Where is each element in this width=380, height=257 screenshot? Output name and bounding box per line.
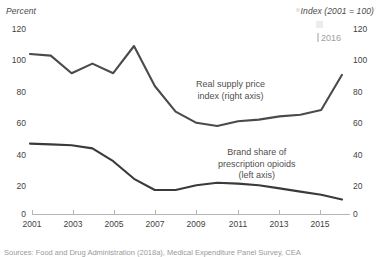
x-axis-tickmark-2013	[279, 210, 280, 214]
annotation-index-line1: Real supply price	[196, 79, 265, 91]
x-axis-tick-2001: 2001	[16, 220, 48, 229]
left-axis-title: Percent	[6, 6, 36, 16]
x-axis-tick-2009: 2009	[180, 220, 212, 229]
right-axis-tick-40: 40	[353, 151, 379, 160]
right-axis-tick-0: 0	[353, 210, 379, 219]
annotation-brand-line1: Brand share of	[218, 147, 296, 159]
left-axis-tick-60: 60	[0, 119, 26, 128]
x-axis-tick-2013: 2013	[263, 220, 295, 229]
annotation-index-line2: index (right axis)	[196, 91, 265, 103]
artifact-ghost-block	[316, 21, 323, 28]
left-axis-tick-0: 0	[0, 210, 26, 219]
artifact-dot	[296, 8, 300, 12]
series-line-real-supply-price-index	[30, 46, 342, 126]
x-axis-tickmark-2009	[196, 210, 197, 214]
right-axis-tick-100: 100	[353, 56, 379, 65]
right-axis-tick-120: 120	[353, 25, 379, 34]
left-axis-tick-120: 120	[0, 25, 26, 34]
x-axis-tick-2011: 2011	[222, 220, 254, 229]
annotation-brand-line3: (left axis)	[218, 170, 296, 182]
x-axis-tickmark-2011	[238, 210, 239, 214]
right-axis-title: Index (2001 = 100)	[301, 6, 374, 16]
x-axis-tick-2003: 2003	[57, 220, 89, 229]
left-axis-tick-20: 20	[0, 182, 26, 191]
plot-area	[30, 22, 342, 214]
annotation-brand-share: Brand share of prescription opioids (lef…	[218, 147, 296, 182]
annotation-brand-line2: prescription opioids	[218, 159, 296, 171]
x-axis-tick-2007: 2007	[139, 220, 171, 229]
left-axis-tick-40: 40	[0, 151, 26, 160]
x-axis-tick-2015: 2015	[304, 220, 336, 229]
chart-figure: Percent Index (2001 = 100) 120 100 80 60…	[0, 0, 380, 257]
left-axis-tick-100: 100	[0, 56, 26, 65]
right-axis-tick-80: 80	[353, 88, 379, 97]
x-axis-tick-2005: 2005	[98, 220, 130, 229]
artifact-tick	[317, 33, 319, 42]
artifact-year-label: 2016	[321, 33, 341, 43]
right-axis-tick-60: 60	[353, 119, 379, 128]
annotation-real-supply-price-index: Real supply price index (right axis)	[196, 79, 265, 102]
x-axis-tickmark-2003	[73, 210, 74, 214]
x-axis-tickmark-2015	[320, 210, 321, 214]
x-axis-line	[32, 214, 350, 215]
right-axis-tick-20: 20	[353, 182, 379, 191]
x-axis-start-cap	[32, 210, 33, 214]
x-axis-tickmark-2007	[155, 210, 156, 214]
x-axis-tickmark-2005	[114, 210, 115, 214]
source-note: Sources: Food and Drug Administration (2…	[4, 248, 301, 257]
left-axis-tick-80: 80	[0, 88, 26, 97]
